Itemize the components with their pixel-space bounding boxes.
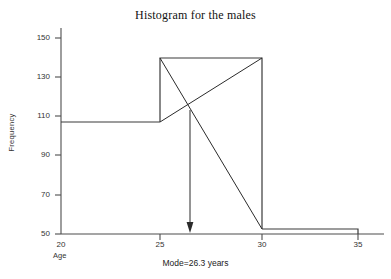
y-axis-ticks [55, 38, 61, 234]
mode-annotation: Mode=26.3 years [0, 258, 391, 268]
y-tick-label-130: 130 [24, 72, 50, 81]
x-tick-label-20: 20 [49, 240, 73, 249]
mode-arrowhead-icon [187, 222, 194, 233]
histogram-figure: Histogram for the males Frequency 150 13… [0, 0, 391, 279]
y-tick-label-70: 70 [24, 190, 50, 199]
y-tick-label-150: 150 [24, 33, 50, 42]
histogram-plot-area [0, 0, 391, 279]
y-axis-label: Frequency [7, 103, 16, 163]
x-tick-label-30: 30 [250, 240, 274, 249]
mode-diagonal-left [160, 58, 262, 229]
y-tick-label-110: 110 [24, 111, 50, 120]
x-tick-label-35: 35 [346, 240, 370, 249]
x-tick-label-25: 25 [148, 240, 172, 249]
y-tick-label-90: 90 [24, 150, 50, 159]
y-tick-label-50: 50 [24, 229, 50, 238]
chart-title: Histogram for the males [0, 8, 391, 23]
mode-diagonal-right [160, 58, 262, 122]
histogram-bar-30-35 [262, 229, 358, 234]
